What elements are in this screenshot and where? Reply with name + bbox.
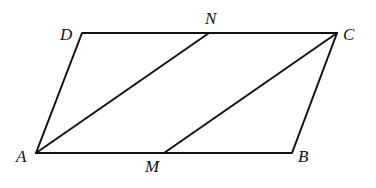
label-n: N [204, 9, 218, 28]
label-m: M [144, 157, 160, 176]
parallelogram-diagram: D N C A M B [0, 0, 376, 188]
label-c: C [343, 25, 355, 44]
label-a: A [15, 147, 27, 166]
segment-mc [164, 33, 337, 153]
label-b: B [298, 147, 309, 166]
segment-an [36, 33, 209, 153]
parallelogram-abcd [36, 33, 337, 153]
label-d: D [59, 25, 73, 44]
